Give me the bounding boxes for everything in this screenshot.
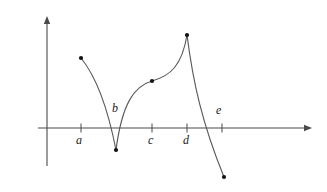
axis-label-d: d (183, 134, 189, 146)
curve-arc-c-to-d (152, 35, 187, 81)
axis-label-a: a (76, 134, 82, 146)
graph-canvas (0, 0, 327, 192)
y-axis-arrowhead-icon (44, 16, 50, 24)
graph-figure: abcde (0, 0, 327, 192)
point-inflection-at-c (150, 79, 154, 83)
x-axis-arrowhead-icon (304, 125, 312, 131)
curve-arc-a-to-b (81, 58, 116, 150)
point-right-endpoint (222, 175, 226, 179)
axis-label-c: c (148, 134, 153, 146)
axis-label-b: b (112, 102, 118, 114)
curve-arc-b-to-c (116, 81, 152, 150)
axis-label-e: e (216, 104, 221, 116)
point-cusp-minimum-at-b (114, 148, 118, 152)
point-left-endpoint (79, 56, 83, 60)
point-maximum-at-d (185, 33, 189, 37)
